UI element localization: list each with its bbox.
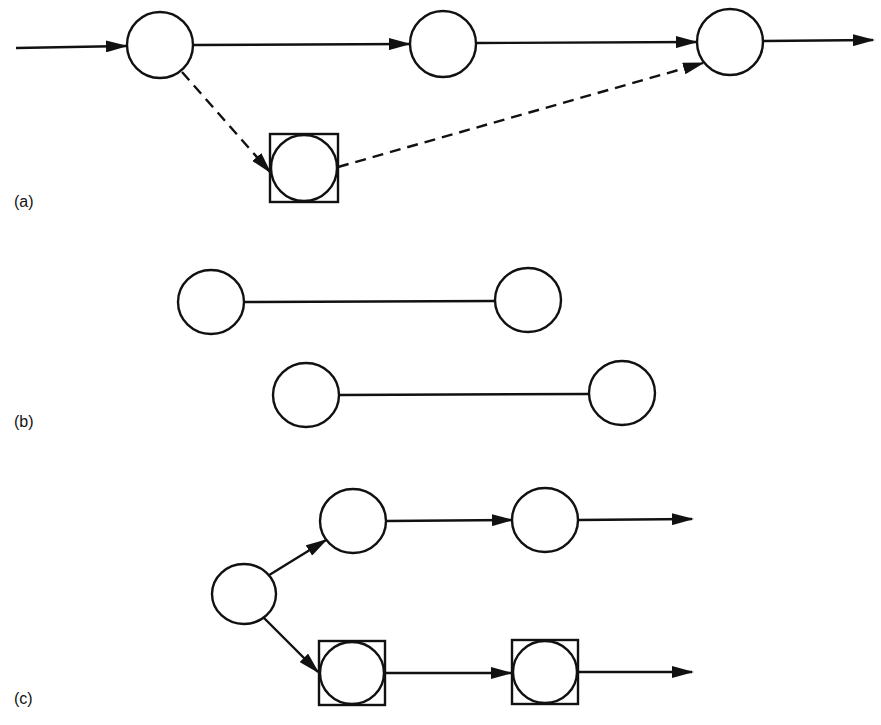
edge-c1-c4: [264, 618, 318, 672]
node-a1: [127, 12, 193, 78]
edge-a3-end: [764, 40, 873, 41]
node-b4: [589, 361, 655, 425]
panel-label-a: (a): [14, 193, 34, 211]
panel-c: [212, 488, 692, 705]
node-b2: [495, 268, 561, 332]
node-c1: [212, 564, 276, 624]
panel-a: [16, 9, 873, 202]
edge-a2-a3: [477, 42, 696, 43]
node-a4: [271, 135, 337, 201]
panel-b: [178, 268, 655, 427]
edge-a4-a3: [338, 63, 703, 167]
node-b1: [178, 270, 244, 334]
edge-a1-a2: [194, 44, 409, 45]
edge-b1-b2: [244, 301, 495, 302]
edge-a1-a4: [182, 72, 270, 172]
edge-b3-b4: [339, 394, 589, 395]
node-c5: [513, 641, 577, 703]
node-c3: [512, 488, 578, 552]
diagram-canvas: [0, 0, 881, 725]
edge-c2-c3: [386, 520, 512, 521]
node-b3: [273, 363, 339, 427]
node-a3: [697, 9, 763, 75]
node-a2: [410, 11, 476, 77]
edge-c1-c2: [266, 540, 326, 577]
edge-start-a1: [16, 46, 126, 48]
panel-label-c: (c): [14, 690, 33, 708]
node-c2: [320, 489, 386, 553]
node-c4: [320, 642, 384, 704]
edge-c3-end: [578, 519, 692, 520]
panel-label-b: (b): [14, 413, 34, 431]
